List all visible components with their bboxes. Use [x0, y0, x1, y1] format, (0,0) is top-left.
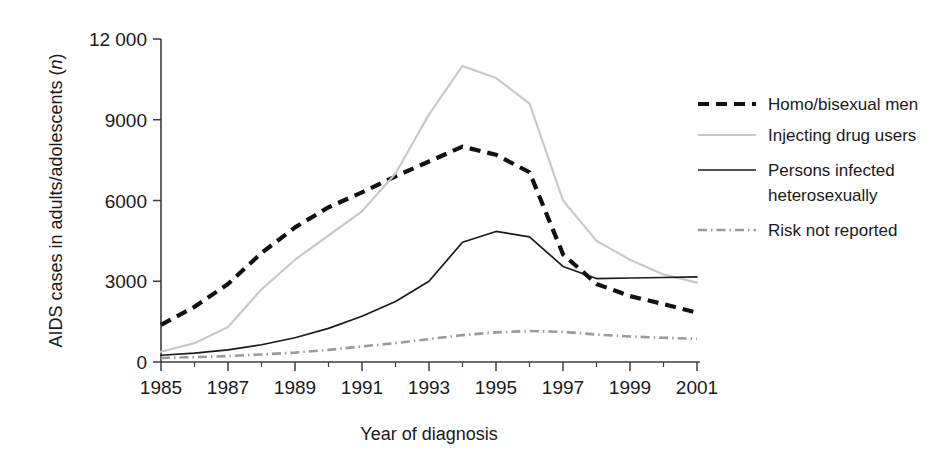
aids-cases-line-chart: 030006000900012 000198519871989199119931…: [0, 0, 952, 472]
x-tick-label: 1995: [475, 377, 517, 398]
y-tick-label: 3000: [105, 271, 147, 292]
series-line-3: [161, 331, 697, 358]
series-line-0: [161, 147, 697, 325]
legend-label-2[interactable]: Persons infected: [768, 161, 895, 180]
y-tick-label: 12 000: [89, 29, 147, 50]
data-series: [161, 66, 697, 358]
x-axis-title: Year of diagnosis: [360, 424, 497, 444]
y-axis-title: AIDS cases in adults/adolescents (n): [46, 53, 66, 347]
y-tick-label: 0: [136, 352, 147, 373]
x-tick-label: 1989: [274, 377, 316, 398]
legend-label-2-line2[interactable]: heterosexually: [768, 186, 878, 205]
x-tick-label: 1991: [341, 377, 383, 398]
legend-label-1[interactable]: Injecting drug users: [768, 126, 916, 145]
x-tick-label: 1985: [140, 377, 182, 398]
legend-label-0[interactable]: Homo/bisexual men: [768, 95, 918, 114]
chart-legend: Homo/bisexual menInjecting drug usersPer…: [698, 95, 918, 240]
x-tick-label: 1987: [207, 377, 249, 398]
chart-canvas: 030006000900012 000198519871989199119931…: [0, 0, 952, 472]
series-line-1: [161, 66, 697, 352]
x-tick-label: 1993: [408, 377, 450, 398]
legend-label-3[interactable]: Risk not reported: [768, 221, 897, 240]
y-tick-label: 6000: [105, 191, 147, 212]
y-tick-label: 9000: [105, 110, 147, 131]
x-tick-label: 1999: [609, 377, 651, 398]
axes: [153, 39, 700, 371]
x-tick-label: 1997: [542, 377, 584, 398]
x-tick-label: 2001: [676, 377, 718, 398]
axis-labels: 030006000900012 000198519871989199119931…: [46, 29, 718, 444]
